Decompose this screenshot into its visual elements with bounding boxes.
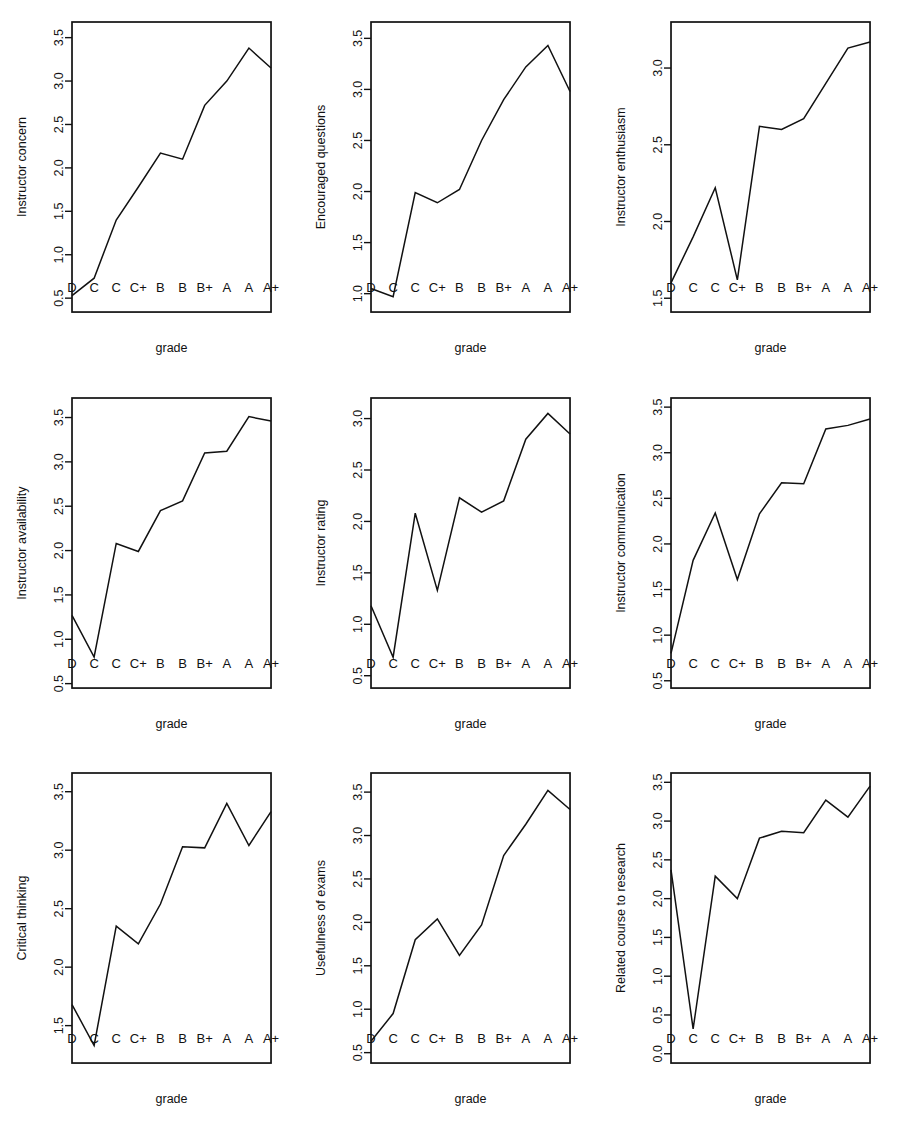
data-series-line <box>72 48 271 295</box>
y-axis-tick-label: 2.5 <box>651 851 665 868</box>
x-axis-tick-label: B <box>455 656 464 671</box>
x-axis-tick-label: A <box>544 280 553 295</box>
x-axis-title: grade <box>156 717 188 731</box>
x-axis-tick-label: A <box>522 280 531 295</box>
data-series-line <box>371 791 570 1042</box>
y-axis-title: Instructor enthusiasm <box>614 107 628 227</box>
x-axis-tick-label: D <box>67 1031 76 1046</box>
x-axis-tick-label: B <box>178 1031 187 1046</box>
chart-panel: 0.51.01.52.02.53.03.5DCCC+BBB+AAA+Useful… <box>299 751 598 1127</box>
data-series-line <box>371 413 570 657</box>
y-axis-tick-label: 3.0 <box>351 827 365 844</box>
data-series-line <box>72 804 271 1046</box>
x-axis-tick-label: A <box>843 656 852 671</box>
y-axis-tick-label: 2.5 <box>52 900 66 917</box>
y-axis-tick-label: 1.0 <box>351 1001 365 1018</box>
panel-plot-8: 0.51.01.52.02.53.03.5DCCC+BBB+AAA+Useful… <box>299 751 598 1127</box>
x-axis-tick-label: A+ <box>562 280 578 295</box>
y-axis-tick-label: 0.0 <box>651 1045 665 1062</box>
x-axis-tick-label: C+ <box>429 1031 446 1046</box>
y-axis-tick-label: 0.5 <box>351 1044 365 1061</box>
x-axis-tick-label: B+ <box>795 656 811 671</box>
x-axis-tick-label: C <box>89 280 98 295</box>
y-axis-tick-label: 2.5 <box>351 132 365 149</box>
x-axis-tick-label: B <box>156 1031 165 1046</box>
y-axis-title: Critical thinking <box>15 876 29 961</box>
x-axis-tick-label: C+ <box>130 1031 147 1046</box>
panel-plot-3: 1.52.02.53.0DCCC+BBB+AAA+Instructor enth… <box>599 0 898 376</box>
x-axis-tick-label: C <box>688 656 697 671</box>
x-axis-tick-label: B <box>455 280 464 295</box>
y-axis-tick-label: 1.5 <box>351 564 365 581</box>
x-axis-tick-label: B <box>478 656 487 671</box>
x-axis-tick-label: A+ <box>263 280 279 295</box>
x-axis-tick-label: A <box>222 1031 231 1046</box>
y-axis-tick-label: 1.0 <box>52 630 66 647</box>
y-axis-title: Related course to research <box>614 843 628 993</box>
y-axis-tick-label: 1.5 <box>651 290 665 307</box>
y-axis-tick-label: 2.5 <box>651 489 665 506</box>
y-axis-title: Instructor rating <box>314 499 328 586</box>
x-axis-tick-label: A+ <box>562 1031 578 1046</box>
x-axis-tick-label: A+ <box>862 656 878 671</box>
x-axis-tick-label: C <box>710 280 719 295</box>
plot-frame <box>72 773 271 1063</box>
x-axis-tick-label: A+ <box>263 656 279 671</box>
y-axis-tick-label: 1.0 <box>651 968 665 985</box>
x-axis-tick-label: B+ <box>496 280 512 295</box>
x-axis-tick-label: C <box>112 1031 121 1046</box>
y-axis-tick-label: 3.5 <box>351 784 365 801</box>
x-axis-tick-label: C <box>688 280 697 295</box>
x-axis-tick-label: A <box>821 1031 830 1046</box>
panel-grid: 0.51.01.52.02.53.03.5DCCC+BBB+AAA+Instru… <box>0 0 898 1127</box>
x-axis-tick-label: C <box>411 656 420 671</box>
panel-plot-6: 0.51.01.52.02.53.03.5DCCC+BBB+AAA+Instru… <box>599 376 898 752</box>
y-axis-tick-label: 2.5 <box>52 116 66 133</box>
x-axis-title: grade <box>455 717 487 731</box>
x-axis-tick-label: B <box>478 280 487 295</box>
panel-plot-7: 1.52.02.53.03.5DCCC+BBB+AAA+Critical thi… <box>0 751 299 1127</box>
x-axis-tick-label: B <box>156 280 165 295</box>
data-series-line <box>671 42 870 283</box>
x-axis-tick-label: A <box>222 656 231 671</box>
x-axis-tick-label: B+ <box>795 280 811 295</box>
y-axis-tick-label: 0.5 <box>651 672 665 689</box>
x-axis-tick-label: A+ <box>263 1031 279 1046</box>
y-axis-tick-label: 1.0 <box>351 285 365 302</box>
x-axis-tick-label: A <box>222 280 231 295</box>
x-axis-title: grade <box>455 1092 487 1106</box>
y-axis-tick-label: 1.5 <box>651 929 665 946</box>
x-axis-tick-label: A <box>245 280 254 295</box>
y-axis-tick-label: 1.5 <box>351 234 365 251</box>
x-axis-tick-label: D <box>666 1031 675 1046</box>
x-axis-tick-label: C <box>411 280 420 295</box>
x-axis-tick-label: A <box>821 656 830 671</box>
x-axis-tick-label: C+ <box>429 280 446 295</box>
y-axis-tick-label: 3.5 <box>351 30 365 47</box>
x-axis-tick-label: A <box>522 1031 531 1046</box>
y-axis-tick-label: 3.5 <box>651 398 665 415</box>
x-axis-tick-label: C+ <box>729 656 746 671</box>
chart-panel: 0.51.01.52.02.53.03.5DCCC+BBB+AAA+Instru… <box>0 0 299 376</box>
y-axis-tick-label: 2.0 <box>351 183 365 200</box>
y-axis-tick-label: 2.0 <box>52 959 66 976</box>
x-axis-tick-label: D <box>367 656 376 671</box>
y-axis-tick-label: 3.5 <box>651 774 665 791</box>
panel-plot-5: 0.51.01.52.02.53.0DCCC+BBB+AAA+Instructo… <box>299 376 598 752</box>
y-axis-title: Encouraged questions <box>314 105 328 229</box>
y-axis-tick-label: 1.5 <box>651 580 665 597</box>
plot-frame <box>371 22 570 312</box>
x-axis-tick-label: B <box>755 656 764 671</box>
data-series-line <box>371 45 570 296</box>
y-axis-title: Instructor concern <box>15 117 29 217</box>
x-axis-tick-label: C+ <box>130 656 147 671</box>
y-axis-tick-label: 0.5 <box>52 289 66 306</box>
y-axis-tick-label: 3.5 <box>52 783 66 800</box>
x-axis-tick-label: C <box>112 280 121 295</box>
panel-plot-2: 1.01.52.02.53.03.5DCCC+BBB+AAA+Encourage… <box>299 0 598 376</box>
x-axis-tick-label: C <box>688 1031 697 1046</box>
plot-frame <box>371 398 570 688</box>
x-axis-tick-label: C <box>411 1031 420 1046</box>
x-axis-tick-label: B <box>455 1031 464 1046</box>
x-axis-tick-label: B+ <box>795 1031 811 1046</box>
